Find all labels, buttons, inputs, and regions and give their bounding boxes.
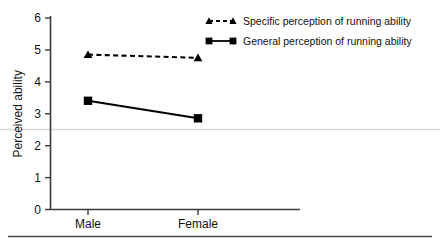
series-general-perception [84,97,202,123]
legend-label-general: General perception of running ability [243,35,412,47]
chart-figure: 0 1 2 3 4 5 6 Perceived ability Male Fem… [0,0,440,245]
series-general-point-female [194,114,202,122]
legend-key-general [205,34,237,48]
y-axis-title: Perceived ability [11,70,25,157]
series-specific-line [88,55,198,58]
square-marker-icon [205,34,237,48]
x-axis-label-female: Female [178,217,218,231]
y-tick-label-4: 4 [34,75,41,89]
y-axis-tick-labels: 0 1 2 3 4 5 6 [34,11,41,216]
x-axis-ticks [88,210,198,216]
y-tick-label-5: 5 [34,43,41,57]
legend-item-general: General perception of running ability [205,32,437,49]
y-tick-label-1: 1 [34,171,41,185]
legend-item-specific: Specific perception of running ability [205,12,437,29]
series-general-line [88,101,198,119]
legend-label-specific: Specific perception of running ability [243,15,411,27]
y-tick-label-3: 3 [34,107,41,121]
series-specific-point-female [194,54,203,62]
y-tick-label-2: 2 [34,139,41,153]
series-general-point-male [84,97,92,105]
series-specific-perception [84,50,203,61]
legend-key-specific [205,14,237,28]
y-axis-ticks [45,18,51,209]
y-tick-label-6: 6 [34,11,41,25]
chart-legend: Specific perception of running ability G… [205,12,437,52]
y-tick-label-0: 0 [34,203,41,217]
triangle-marker-icon [205,14,237,28]
x-axis-label-male: Male [75,217,101,231]
